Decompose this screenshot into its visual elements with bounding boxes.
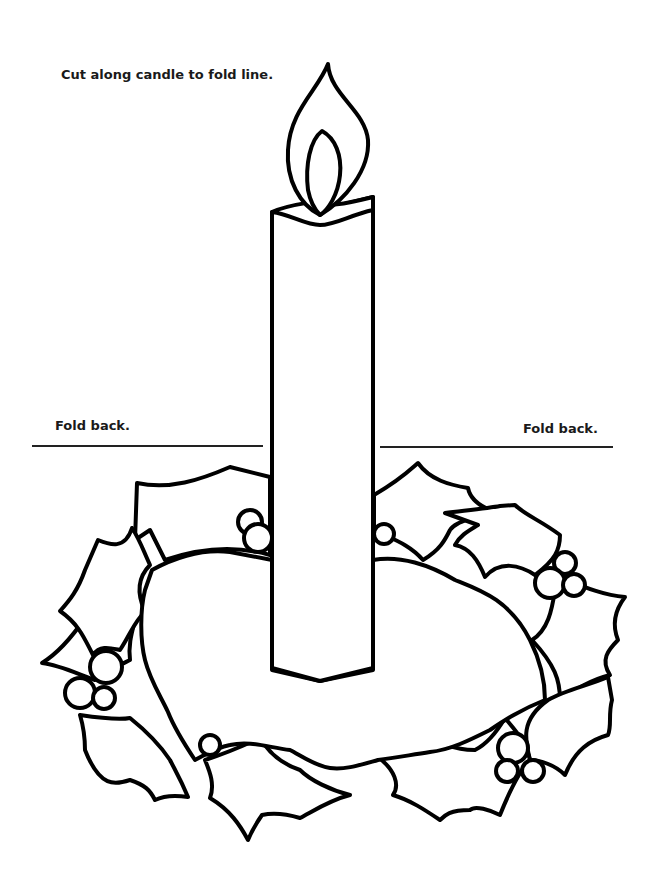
berry-icon [90,651,122,683]
berry-icon [200,735,220,755]
wreath-candle-illustration [0,0,666,873]
berry-icon [563,574,585,596]
candle-icon [272,64,373,681]
berry-icon [496,760,518,782]
candle-body [272,197,373,681]
berry-icon [65,678,95,708]
berry-icon [244,524,272,552]
berry-icon [498,733,528,763]
holly-leaf-icon [445,505,560,577]
berry-icon [522,760,544,782]
berry-icon [535,568,565,598]
coloring-page: Cut along candle to fold line. Fold back… [0,0,666,873]
berry-icon [374,524,394,544]
holly-leaf-icon [80,715,188,800]
berry-icon [93,687,115,709]
